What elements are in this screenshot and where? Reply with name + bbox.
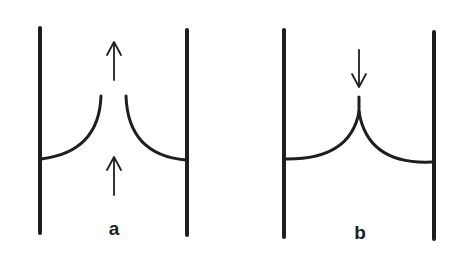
panel-a-lower-arrow-up-icon (107, 157, 121, 195)
panel-a-right-meniscus (126, 96, 186, 160)
panel-a-upper-arrow-up-icon (107, 42, 121, 80)
panel-b: b (284, 30, 434, 243)
panel-b-right-meniscus (359, 112, 432, 162)
panel-a: a (40, 28, 187, 239)
diagram-canvas: a b (0, 0, 462, 255)
panel-b-arrow-down-icon (352, 50, 366, 87)
panel-b-label: b (354, 222, 366, 243)
panel-a-label: a (109, 218, 120, 239)
panel-a-left-meniscus (41, 96, 101, 159)
panel-b-left-meniscus (285, 112, 359, 159)
